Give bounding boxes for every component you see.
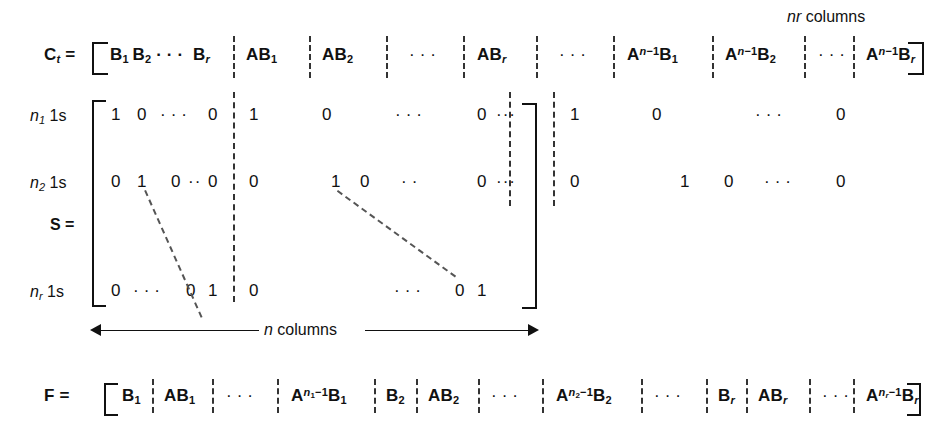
s-cell-r1-b2-dots: ·· — [401, 172, 422, 192]
s-cell-r1-b3-4: 0 — [836, 172, 845, 192]
f-label: F = — [44, 386, 70, 406]
s-cell-r0-gap-dots: ··· — [496, 105, 516, 125]
f-cell-8: ··· — [654, 386, 686, 406]
f-cell-3: An1−1B1 — [291, 386, 347, 406]
s-cell-r1-b1-0: 0 — [111, 172, 120, 192]
s-cell-r2-b1-3: 1 — [208, 281, 217, 301]
s-row-label-1: n2 1s — [30, 174, 66, 193]
f-separator-8 — [641, 379, 643, 413]
ct-separator-6 — [613, 36, 615, 78]
s-cell-r0-b3-3: 0 — [836, 105, 845, 125]
s-cell-r1-b3-0: 0 — [570, 172, 579, 192]
s-diagonal-line-2 — [337, 190, 456, 277]
s-cell-r2-b1-dots: ··· — [133, 281, 165, 301]
s-cell-r0-b1-dots: ··· — [160, 105, 192, 125]
s-cell-r2-b1-0: 0 — [111, 281, 120, 301]
ct-separator-5 — [536, 36, 538, 78]
f-cell-0: B1 — [122, 386, 141, 406]
s-cell-r2-b2-dots: ··· — [394, 281, 426, 301]
f-separator-6 — [478, 379, 480, 413]
s-cell-r0-b2-0: 1 — [249, 105, 258, 125]
ct-cell-1: AB1 — [246, 45, 277, 65]
f-separator-10 — [746, 379, 748, 413]
f-cell-1: AB1 — [164, 386, 195, 406]
f-separator-3 — [277, 379, 279, 413]
s-cell-r1-b3-1: 1 — [680, 172, 689, 192]
s-bracket-right — [522, 103, 537, 309]
s-cell-r1-b3-dots: ··· — [764, 172, 796, 192]
s-cell-r0-b3-dots: ··· — [755, 105, 787, 125]
ct-cell-0: B1 B2 ··· Br — [110, 45, 210, 65]
ct-separator-3 — [386, 36, 388, 78]
f-cell-2: ··· — [226, 386, 258, 406]
ct-cell-3: ··· — [409, 45, 441, 65]
ct-cell-6: An−1B1 — [627, 45, 678, 65]
f-cell-11: ··· — [822, 386, 854, 406]
f-separator-5 — [416, 379, 418, 413]
f-cell-4: B2 — [386, 386, 405, 406]
n-columns-word: columns — [277, 321, 337, 338]
s-cell-r1-b1-dots: ·· — [188, 172, 201, 192]
ct-bracket-left — [92, 42, 108, 75]
f-cell-6: ··· — [491, 386, 523, 406]
ct-label: Ct = — [44, 45, 75, 65]
s-cell-r2-b2-2: 0 — [455, 281, 464, 301]
s-separator-3 — [553, 92, 555, 206]
s-row-label-0: n1 1s — [30, 107, 66, 126]
n-columns-arrow-head-right — [528, 324, 539, 336]
f-separator-1 — [152, 379, 154, 413]
ct-cell-4: ABr — [477, 45, 506, 65]
f-separator-11 — [809, 379, 811, 413]
ct-cell-7: An−1B2 — [725, 45, 776, 65]
f-cell-10: ABr — [758, 386, 787, 406]
s-separator-2 — [509, 92, 511, 206]
s-cell-r1-b2-4: 0 — [477, 172, 486, 192]
f-cell-9: Br — [718, 386, 735, 406]
s-cell-r1-gap-dots: ··· — [496, 172, 516, 192]
ct-cell-9: An−1Br — [866, 45, 915, 65]
ct-cell-5: ··· — [559, 45, 591, 65]
s-cell-r0-b3-1: 0 — [652, 105, 661, 125]
n-columns-arrow-line-right — [365, 330, 529, 331]
s-cell-r0-b1-1: 0 — [137, 105, 146, 125]
f-separator-12 — [853, 379, 855, 413]
s-cell-r0-b2-3: 0 — [477, 105, 486, 125]
s-cell-r2-b2-0: 0 — [249, 281, 258, 301]
s-cell-r0-b2-dots: ··· — [395, 105, 427, 125]
s-cell-r1-b3-2: 0 — [724, 172, 733, 192]
ct-cell-2: AB2 — [322, 45, 353, 65]
n-columns-arrow-head-left — [90, 324, 101, 336]
f-separator-2 — [212, 379, 214, 413]
f-separator-4 — [374, 379, 376, 413]
s-separator-1 — [233, 92, 235, 302]
ct-separator-8 — [804, 36, 806, 78]
ct-separator-7 — [712, 36, 714, 78]
f-separator-7 — [542, 379, 544, 413]
nr-columns-annotation: nr columns — [787, 8, 865, 26]
nr-columns-word: columns — [806, 8, 866, 25]
f-cell-5: AB2 — [428, 386, 459, 406]
s-cell-r0-b1-0: 1 — [111, 105, 120, 125]
s-cell-r0-b2-1: 0 — [322, 105, 331, 125]
s-bracket-left — [92, 100, 106, 307]
f-cell-12: Anr−1Br — [866, 386, 919, 406]
ct-separator-1 — [233, 36, 235, 78]
n-columns-annotation: n columns — [264, 321, 337, 339]
s-cell-r0-b3-0: 1 — [570, 105, 579, 125]
ct-separator-9 — [853, 36, 855, 78]
s-label: S = — [50, 216, 74, 234]
s-cell-r1-b1-2: 0 — [171, 172, 180, 192]
s-cell-r2-b2-3: 1 — [477, 281, 486, 301]
f-bracket-left — [104, 383, 118, 416]
s-cell-r1-b2-1: 1 — [331, 172, 340, 192]
f-cell-7: An2−1B2 — [556, 386, 612, 406]
s-row-label-2: nr 1s — [30, 283, 64, 302]
ct-separator-4 — [463, 36, 465, 78]
ct-separator-2 — [309, 36, 311, 78]
n-columns-arrow-line-left — [99, 330, 259, 331]
s-cell-r1-b2-0: 0 — [249, 172, 258, 192]
f-separator-9 — [706, 379, 708, 413]
s-cell-r0-b1-3: 0 — [208, 105, 217, 125]
s-cell-r1-b1-4: 0 — [208, 172, 217, 192]
s-cell-r1-b2-2: 0 — [360, 172, 369, 192]
